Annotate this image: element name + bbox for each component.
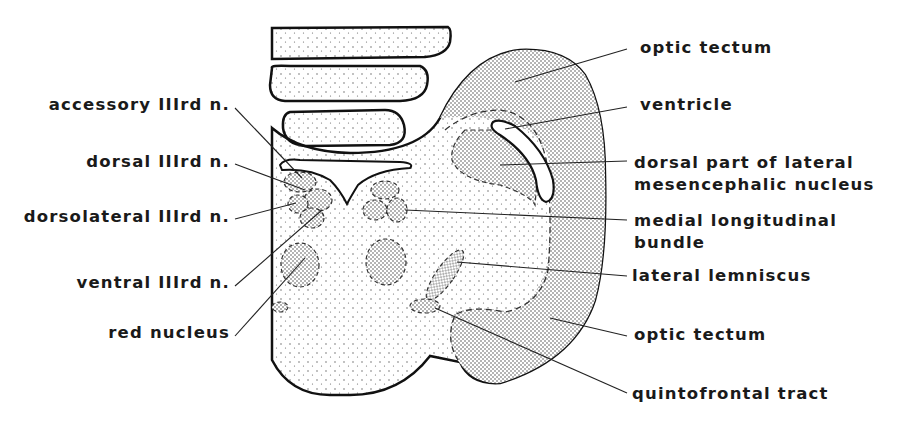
label-red-nucleus: red nucleus xyxy=(108,323,230,343)
label-quintofrontal-tract: quintofrontal tract xyxy=(632,384,829,404)
label-ventral-iiird-n: ventral IIIrd n. xyxy=(76,273,230,293)
label-accessory-iiird-n: accessory IIIrd n. xyxy=(49,95,230,115)
label-dorsolateral-iiird-n: dorsolateral IIIrd n. xyxy=(24,207,230,227)
label-lateral-lemniscus: lateral lemniscus xyxy=(632,266,812,286)
label-optic-tectum-top: optic tectum xyxy=(640,38,772,58)
label-ventricle: ventricle xyxy=(640,95,733,115)
label-medial-longitudinal-line2: bundle xyxy=(634,233,705,253)
label-optic-tectum-bottom: optic tectum xyxy=(634,325,766,345)
dorsal-plates xyxy=(270,27,451,146)
label-dorsal-iiird-n: dorsal IIIrd n. xyxy=(86,152,230,172)
label-medial-longitudinal-line1: medial longitudinal xyxy=(634,211,837,231)
label-dorsal-part-lateral-line2: mesencephalic nucleus xyxy=(634,175,875,195)
label-dorsal-part-lateral-line1: dorsal part of lateral xyxy=(634,153,854,173)
